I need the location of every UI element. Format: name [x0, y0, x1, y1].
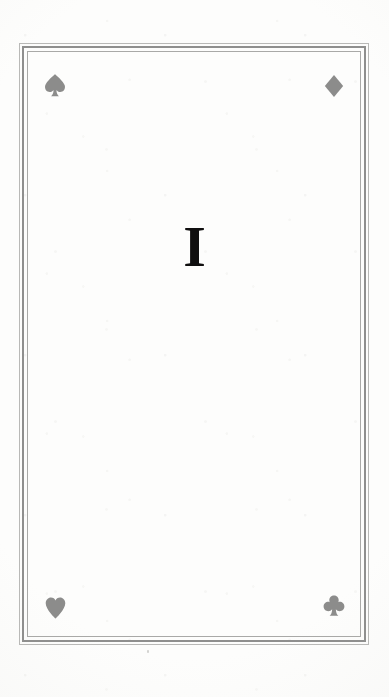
part-divider-page: I: [0, 0, 389, 697]
club-icon: [321, 593, 347, 621]
part-numeral: I: [0, 218, 389, 276]
diamond-icon: [321, 72, 347, 100]
scan-speck: [147, 650, 149, 653]
frame-inner-rule: [27, 51, 361, 637]
spade-icon: [42, 72, 68, 100]
heart-icon: [42, 593, 68, 621]
